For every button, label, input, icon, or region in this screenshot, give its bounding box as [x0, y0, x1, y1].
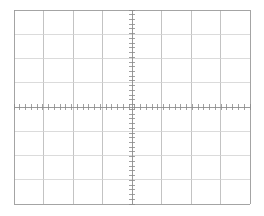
screenshot-root: [0, 0, 264, 216]
oscilloscope-graticule: [0, 0, 264, 216]
